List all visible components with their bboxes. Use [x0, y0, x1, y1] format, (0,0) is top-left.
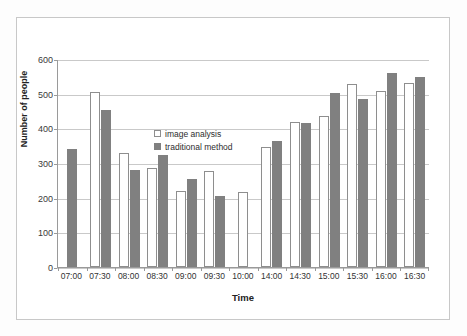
y-axis-tick-label: 600 — [38, 55, 53, 65]
bar-0930-series0 — [204, 171, 214, 267]
bar-1600-series1 — [387, 73, 397, 267]
bar-0900-series1 — [187, 179, 197, 267]
legend-item-traditional-method: traditional method — [154, 141, 233, 152]
bar-1600-series0 — [376, 91, 386, 267]
bar-0800-series1 — [130, 170, 140, 267]
bar-group — [115, 60, 144, 267]
x-axis-tick-label: 09:00 — [171, 271, 200, 285]
bar-group — [372, 60, 401, 267]
bar-0800-series0 — [119, 153, 129, 267]
chart-figure: Number of people 0100200300400500600 ima… — [0, 0, 467, 336]
x-axis-tick-label: 16:30 — [400, 271, 429, 285]
x-axis-line — [57, 267, 429, 268]
x-axis-tick-label: 08:00 — [114, 271, 143, 285]
bar-0730-series0 — [90, 92, 100, 267]
bar-group — [286, 60, 315, 267]
bar-0830-series1 — [158, 155, 168, 267]
x-axis-tick-label: 15:30 — [343, 271, 372, 285]
bar-0730-series1 — [101, 110, 111, 267]
legend-item-image-analysis: image analysis — [154, 128, 233, 139]
bar-1500-series0 — [319, 116, 329, 267]
x-axis-tick-label: 16:00 — [372, 271, 401, 285]
bar-group — [400, 60, 429, 267]
x-axis-tick-label: 07:00 — [57, 271, 86, 285]
bar-group — [87, 60, 116, 267]
bar-0700-series1 — [67, 149, 77, 267]
bar-1400-series0 — [261, 147, 271, 267]
bar-1000-series0 — [238, 192, 248, 267]
y-axis-tick-label: 300 — [38, 159, 53, 169]
bar-1530-series0 — [347, 84, 357, 267]
bar-0900-series0 — [176, 191, 186, 267]
bar-group — [172, 60, 201, 267]
x-axis-tick-labels: 07:0007:3008:0008:3009:0009:3010:0014:00… — [57, 271, 429, 285]
bar-1430-series0 — [290, 122, 300, 267]
bar-1400-series1 — [272, 141, 282, 267]
bar-group — [258, 60, 287, 267]
x-axis-tick-label: 14:00 — [257, 271, 286, 285]
bar-group — [144, 60, 173, 267]
bar-group — [343, 60, 372, 267]
legend-label-traditional-method: traditional method — [165, 142, 233, 152]
bar-group — [315, 60, 344, 267]
y-axis-tick-label: 100 — [38, 228, 53, 238]
bar-1530-series1 — [358, 99, 368, 267]
legend-label-image-analysis: image analysis — [165, 129, 221, 139]
legend: image analysis traditional method — [154, 128, 233, 154]
plot-area: image analysis traditional method — [57, 60, 429, 268]
x-axis-tick-label: 14:30 — [286, 271, 315, 285]
bar-1430-series1 — [301, 123, 311, 267]
legend-swatch-icon-image-analysis — [154, 130, 161, 137]
bar-group — [229, 60, 258, 267]
bar-group — [201, 60, 230, 267]
gridline — [57, 268, 429, 269]
legend-swatch-icon-traditional-method — [154, 143, 161, 150]
x-axis-tick-label: 07:30 — [86, 271, 115, 285]
bar-1630-series1 — [415, 77, 425, 267]
bar-0830-series0 — [147, 168, 157, 267]
x-axis-tick-label: 08:30 — [143, 271, 172, 285]
top-artifact-text — [196, 0, 276, 8]
x-axis-tick-label: 15:00 — [314, 271, 343, 285]
x-axis-tick-label: 10:00 — [229, 271, 258, 285]
x-axis-title: Time — [57, 292, 429, 303]
y-axis-tick-label: 0 — [48, 263, 53, 273]
bar-1630-series0 — [404, 83, 414, 267]
y-axis-tick-label: 400 — [38, 124, 53, 134]
bar-0930-series1 — [215, 196, 225, 267]
x-axis-tick-label: 09:30 — [200, 271, 229, 285]
bar-group — [58, 60, 87, 267]
y-axis-tick-label: 500 — [38, 90, 53, 100]
bar-groups — [58, 60, 429, 267]
y-axis-tick-labels: 0100200300400500600 — [26, 60, 53, 268]
y-axis-tick-label: 200 — [38, 194, 53, 204]
bar-1500-series1 — [330, 93, 340, 267]
